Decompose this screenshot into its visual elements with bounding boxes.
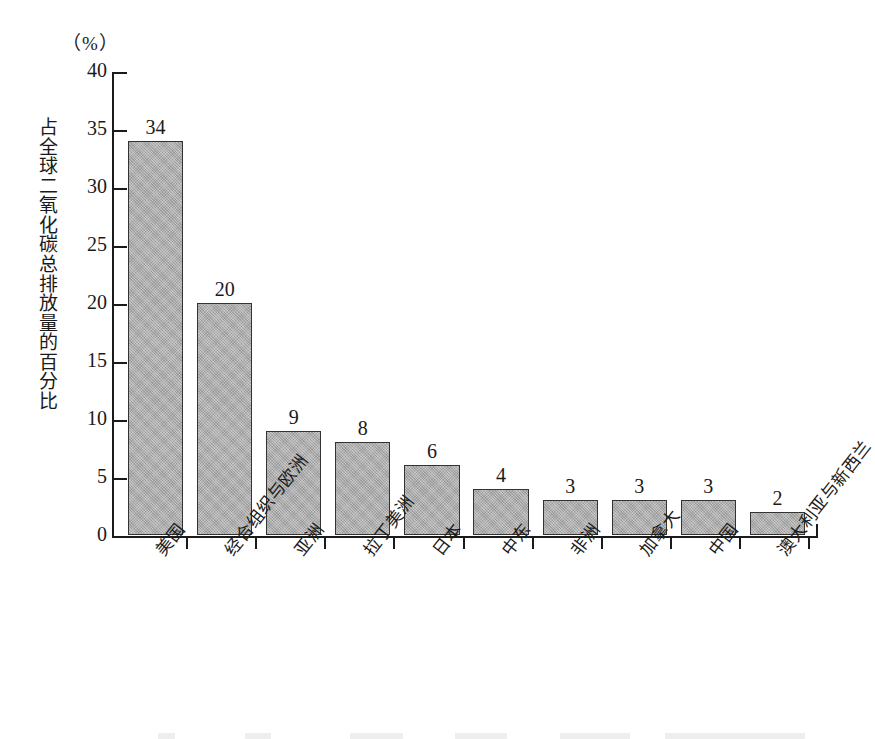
x-axis-tick (739, 538, 741, 549)
bar-value-label: 3 (703, 476, 713, 496)
y-axis-tick: 35 (114, 130, 127, 132)
bar-value-label: 6 (427, 441, 437, 461)
bar: 20 (197, 303, 252, 535)
y-axis-tick-label: 5 (97, 466, 107, 486)
bar-value-label: 8 (358, 418, 368, 438)
y-axis-tick: 15 (114, 362, 127, 364)
bar-value-label: 4 (496, 465, 506, 485)
bar-value-label: 9 (289, 407, 299, 427)
x-axis-tick (670, 538, 672, 549)
y-axis-tick-label: 35 (87, 118, 107, 138)
y-axis-unit-label: （%） (62, 28, 119, 55)
x-axis-tick (324, 538, 326, 549)
y-axis-title: 占全球二氧化碳总排放量的百分比 (33, 118, 63, 411)
x-axis-category-label: 澳大利亚与新西兰 (775, 438, 875, 559)
y-axis-tick-label: 25 (87, 234, 107, 254)
bar-value-label: 2 (772, 488, 782, 508)
y-axis-tick: 30 (114, 188, 127, 190)
bar-value-label: 3 (634, 476, 644, 496)
y-axis-tick: 0 (114, 536, 127, 538)
y-axis-tick-label: 20 (87, 292, 107, 312)
x-axis-right-cap (816, 524, 818, 538)
x-axis-tick (393, 538, 395, 549)
x-axis-tick (808, 538, 810, 549)
y-axis-tick: 40 (114, 72, 127, 74)
x-axis-tick (186, 538, 188, 549)
bar-value-label: 34 (146, 117, 166, 137)
y-axis-tick: 10 (114, 420, 127, 422)
y-axis-tick: 25 (114, 246, 127, 248)
bar-value-label: 3 (565, 476, 575, 496)
x-axis-tick (532, 538, 534, 549)
x-axis-tick (601, 538, 603, 549)
y-axis-tick-label: 40 (87, 60, 107, 80)
bar-chart: （%） 占全球二氧化碳总排放量的百分比 4035302520151050 342… (0, 0, 875, 739)
y-axis-tick: 5 (114, 478, 127, 480)
bar-value-label: 20 (215, 279, 235, 299)
y-axis-tick-label: 30 (87, 176, 107, 196)
plot-area: 4035302520151050 342098643332 美国经合组织与欧洲亚… (112, 72, 818, 537)
y-axis-tick: 20 (114, 304, 127, 306)
page-edge-artifact (0, 733, 875, 739)
y-axis-tick-label: 10 (87, 408, 107, 428)
y-axis-tick-label: 0 (97, 524, 107, 544)
y-axis-tick-label: 15 (87, 350, 107, 370)
bar: 34 (128, 141, 183, 535)
x-axis-tick (255, 538, 257, 549)
x-axis-tick (463, 538, 465, 549)
